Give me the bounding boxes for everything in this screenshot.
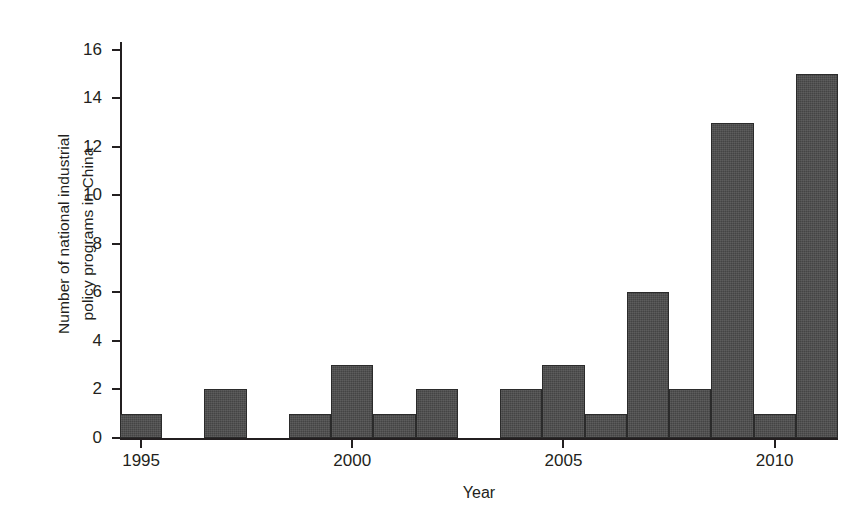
y-tick-mark bbox=[112, 194, 120, 196]
y-tick-mark bbox=[112, 437, 120, 439]
y-axis-title-wrap: Number of national industrial policy pro… bbox=[0, 0, 60, 440]
y-tick-mark bbox=[112, 291, 120, 293]
bar-2001 bbox=[373, 414, 415, 438]
y-tick-label: 6 bbox=[62, 283, 102, 300]
bar-2005 bbox=[542, 365, 584, 438]
x-axis-title: Year bbox=[120, 484, 838, 502]
bar-2011 bbox=[796, 74, 838, 438]
y-tick-label: 12 bbox=[62, 138, 102, 155]
bar-chart-figure: Number of national industrial policy pro… bbox=[0, 0, 861, 525]
x-tick-mark bbox=[774, 440, 776, 448]
y-tick-label: 4 bbox=[62, 332, 102, 349]
bar-2007 bbox=[627, 292, 669, 438]
x-tick-label: 2010 bbox=[735, 452, 815, 469]
x-tick-mark bbox=[351, 440, 353, 448]
plot-area: 0246810121416 1995200020052010 bbox=[120, 40, 838, 440]
y-tick-label: 0 bbox=[62, 429, 102, 446]
y-tick-label: 8 bbox=[62, 235, 102, 252]
bar-2002 bbox=[416, 389, 458, 438]
y-tick-mark bbox=[112, 146, 120, 148]
bar-1999 bbox=[289, 414, 331, 438]
bar-2010 bbox=[754, 414, 796, 438]
y-tick-label: 10 bbox=[62, 186, 102, 203]
y-tick-mark bbox=[112, 388, 120, 390]
y-tick-mark bbox=[112, 243, 120, 245]
x-tick-mark bbox=[562, 440, 564, 448]
x-tick-label: 1995 bbox=[101, 452, 181, 469]
bar-2006 bbox=[585, 414, 627, 438]
x-axis-line bbox=[120, 438, 838, 440]
x-tick-label: 2005 bbox=[523, 452, 603, 469]
y-tick-mark bbox=[112, 49, 120, 51]
y-tick-label: 14 bbox=[62, 89, 102, 106]
bar-2009 bbox=[711, 123, 753, 438]
bar-2004 bbox=[500, 389, 542, 438]
bar-1995 bbox=[120, 414, 162, 438]
y-tick-label: 16 bbox=[62, 41, 102, 58]
bar-2000 bbox=[331, 365, 373, 438]
bar-2008 bbox=[669, 389, 711, 438]
y-axis-line bbox=[120, 42, 122, 440]
y-tick-mark bbox=[112, 97, 120, 99]
bar-1997 bbox=[204, 389, 246, 438]
x-tick-mark bbox=[140, 440, 142, 448]
y-tick-label: 2 bbox=[62, 380, 102, 397]
x-tick-label: 2000 bbox=[312, 452, 392, 469]
y-tick-mark bbox=[112, 340, 120, 342]
